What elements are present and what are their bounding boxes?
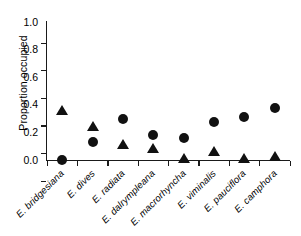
circle-marker-icon: [270, 103, 280, 113]
x-axis-tick-mark: [47, 161, 48, 166]
y-axis-tick-label: 0.8: [8, 44, 38, 55]
triangle-marker-icon: [147, 143, 159, 153]
circle-marker-icon: [148, 130, 158, 140]
x-axis-tick-mark: [77, 161, 78, 166]
scatter-chart: Proportion occupied 0.00.20.40.60.81.0 E…: [0, 0, 301, 236]
circle-marker-icon: [179, 133, 189, 143]
triangle-marker-icon: [178, 153, 190, 163]
triangle-marker-icon: [269, 151, 281, 161]
triangle-marker-icon: [208, 146, 220, 156]
x-axis-tick-mark: [138, 161, 139, 166]
x-axis-tick-mark: [290, 161, 291, 166]
triangle-marker-icon: [117, 139, 129, 149]
y-axis-tick-label: 0.2: [8, 127, 38, 138]
y-axis-tick-label: 0.0: [8, 155, 38, 166]
x-axis-tick-mark: [107, 161, 108, 166]
circle-marker-icon: [118, 114, 128, 124]
plot-area: [47, 22, 290, 160]
circle-marker-icon: [57, 155, 67, 165]
y-axis-tick-label: 0.4: [8, 99, 38, 110]
y-axis-tick-label: 0.6: [8, 72, 38, 83]
triangle-marker-icon: [56, 105, 68, 115]
x-axis-tick-mark: [259, 161, 260, 166]
triangle-marker-icon: [238, 153, 250, 163]
circle-marker-icon: [88, 137, 98, 147]
x-axis-tick-mark: [168, 161, 169, 166]
x-axis-tick-mark: [198, 161, 199, 166]
circle-marker-icon: [209, 117, 219, 127]
x-axis-tick-mark: [229, 161, 230, 166]
triangle-marker-icon: [87, 121, 99, 131]
y-axis-tick-label: 1.0: [8, 17, 38, 28]
circle-marker-icon: [239, 112, 249, 122]
